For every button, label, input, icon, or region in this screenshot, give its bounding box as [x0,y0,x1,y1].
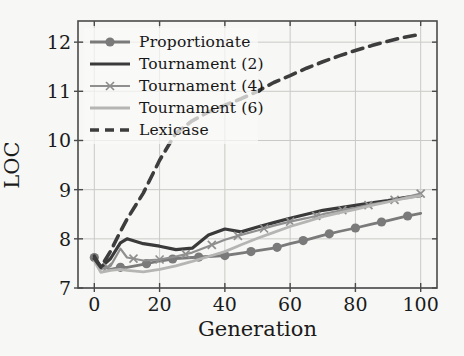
circle-marker [299,236,308,245]
legend-line-swatch [88,100,132,116]
circle-marker [403,211,412,220]
y-tick-label: 12 [27,33,71,52]
y-tick-label: 9 [27,181,71,200]
x-tick-label: 80 [333,295,377,314]
legend-item-proportionate: Proportionate [88,31,258,53]
legend-line-swatch [88,56,132,72]
legend-item-tournament-6-: Tournament (6) [88,97,258,119]
y-tick-label: 8 [27,230,71,249]
legend-label: Proportionate [139,33,251,51]
x-tick-label: 40 [203,295,247,314]
x-tick-label: 100 [399,295,443,314]
circle-marker [325,229,334,238]
legend-line-swatch [88,34,132,50]
legend-label: Lexicase [139,121,209,139]
legend-label: Tournament (4) [139,77,264,95]
legend-item-tournament-4-: Tournament (4) [88,75,258,97]
x-tick-label: 60 [268,295,312,314]
circle-marker [351,223,360,232]
chart-legend: ProportionateTournament (2)Tournament (4… [84,28,258,144]
x-tick-label: 0 [72,295,116,314]
y-tick-label: 10 [27,131,71,150]
x-tick-label: 20 [138,295,182,314]
circle-marker [377,217,386,226]
y-axis-label: LOC [0,25,24,305]
loc-vs-generation-chart: LOC Generation 789101112 020406080100 Pr… [0,0,464,356]
legend-item-lexicase: Lexicase [88,119,258,141]
circle-marker [246,247,255,256]
legend-label: Tournament (6) [139,99,264,117]
legend-line-swatch [88,122,132,138]
circle-marker [272,243,281,252]
x-axis-label: Generation [78,317,437,341]
legend-item-tournament-2-: Tournament (2) [88,53,258,75]
y-tick-label: 11 [27,82,71,101]
y-tick-label: 7 [27,279,71,298]
legend-label: Tournament (2) [139,55,264,73]
legend-circle-marker [105,37,114,46]
legend-line-swatch [88,78,132,94]
